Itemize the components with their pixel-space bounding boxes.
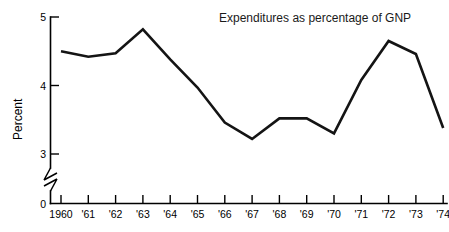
x-tick-label-65: '65 xyxy=(191,208,205,220)
chart-container: Percent Expenditures as percentage of GN… xyxy=(0,0,449,232)
x-tick-label-1960: 1960 xyxy=(49,208,73,220)
x-tick-label-62: '62 xyxy=(109,208,123,220)
x-tick-label-72: '72 xyxy=(382,208,396,220)
x-tick-label-64: '64 xyxy=(163,208,177,220)
y-tick-label-0: 0 xyxy=(40,198,46,210)
x-tick-label-69: '69 xyxy=(300,208,314,220)
x-tick-label-74: '74 xyxy=(436,208,449,220)
y-tick-label-5: 5 xyxy=(40,11,46,23)
x-tick-label-68: '68 xyxy=(273,208,287,220)
x-tick-label-63: '63 xyxy=(136,208,150,220)
x-tick-label-61: '61 xyxy=(81,208,95,220)
x-axis-tick-labels: 1960'61'62'63'64'65'66'67'68'69'70'71'72… xyxy=(49,208,449,220)
line-chart: Percent Expenditures as percentage of GN… xyxy=(0,0,449,232)
x-tick-label-70: '70 xyxy=(327,208,341,220)
x-tick-label-73: '73 xyxy=(409,208,423,220)
y-axis-title: Percent xyxy=(11,98,25,140)
chart-title: Expenditures as percentage of GNP xyxy=(219,11,411,25)
y-tick-label-3: 3 xyxy=(40,148,46,160)
x-tick-label-66: '66 xyxy=(218,208,232,220)
y-tick-label-4: 4 xyxy=(40,80,46,92)
x-tick-label-67: '67 xyxy=(245,208,259,220)
x-tick-label-71: '71 xyxy=(354,208,368,220)
